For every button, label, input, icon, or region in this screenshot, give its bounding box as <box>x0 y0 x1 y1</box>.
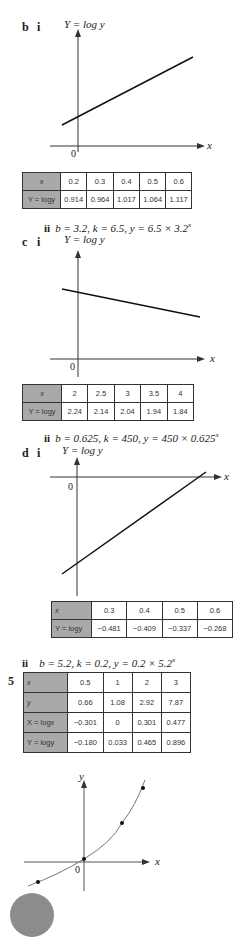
part-c-label: c <box>22 235 27 250</box>
part-b-answer: iib = 3.2, k = 6.5, y = 6.5 × 3.2x <box>44 221 191 234</box>
part-c-answer: iib = 0.625, k = 450, y = 450 × 0.625x <box>44 431 219 444</box>
part-c-sub-i: i <box>37 235 40 250</box>
table-cell: 0.4 <box>127 602 162 620</box>
question-5-x-axis-label: x <box>155 855 160 867</box>
table-cell: 1.08 <box>103 693 132 713</box>
table-cell: 0.4 <box>113 173 139 191</box>
part-d-answer-exponent: x <box>172 656 175 664</box>
table-cell: 1.94 <box>141 403 167 421</box>
table-cell: 2.92 <box>132 693 161 713</box>
table-cell: 2.24 <box>62 403 88 421</box>
table-cell: 0.5 <box>68 673 104 693</box>
part-d-graph <box>0 455 240 615</box>
table-header-Y: Y = logy <box>24 733 68 753</box>
table-header-x: x <box>24 673 68 693</box>
part-b-x-axis-label: x <box>207 139 212 151</box>
table-cell: 2.5 <box>88 385 114 403</box>
table-cell: 0.301 <box>132 713 161 733</box>
table-cell: 0.6 <box>166 173 192 191</box>
part-b-table: x 0.2 0.3 0.4 0.5 0.6 Y = logy 0.914 0.9… <box>22 172 192 209</box>
table-cell: −0.180 <box>68 733 104 753</box>
page-number-badge <box>10 893 54 937</box>
table-cell: 3 <box>161 673 190 693</box>
table-cell: 1.84 <box>167 403 193 421</box>
table-cell: 0.66 <box>68 693 104 713</box>
part-c-sub-ii: ii <box>44 432 50 444</box>
table-cell: 0.5 <box>162 602 197 620</box>
table-cell: 1.117 <box>166 191 192 209</box>
part-d-x-axis-label: x <box>224 470 229 482</box>
part-b-origin-label: 0 <box>71 148 76 159</box>
table-cell: 0.914 <box>61 191 87 209</box>
part-c-y-axis-label: Y = log y <box>64 233 105 245</box>
table-cell: 0.6 <box>197 602 232 620</box>
question-5-origin-label: 0 <box>75 864 80 875</box>
table-cell: 0.3 <box>92 602 127 620</box>
table-cell: 0.465 <box>132 733 161 753</box>
question-5-table: x 0.5 1 2 3 y 0.66 1.08 2.92 7.87 X = lo… <box>23 672 191 753</box>
table-cell: 0.3 <box>87 173 113 191</box>
question-5-y-axis-label: y <box>79 770 84 782</box>
table-cell: 0.964 <box>87 191 113 209</box>
part-d-answer-text: b = 5.2, k = 0.2, y = 0.2 × 5.2 <box>39 657 172 669</box>
table-cell: 4 <box>167 385 193 403</box>
table-cell: 7.87 <box>161 693 190 713</box>
part-b-graph <box>0 0 240 160</box>
part-d-sub-ii: ii <box>22 657 28 669</box>
table-cell: 1.017 <box>113 191 139 209</box>
table-header-x: x <box>23 173 61 191</box>
table-cell: 0.896 <box>161 733 190 753</box>
table-header-Y: Y = logy <box>52 620 92 638</box>
table-cell: −0.481 <box>92 620 127 638</box>
part-c-answer-exponent: x <box>216 431 219 439</box>
part-c-table: x 2 2.5 3 3.5 4 Y = logy 2.24 2.14 2.04 … <box>22 384 194 421</box>
table-header-x: x <box>52 602 92 620</box>
part-c-x-axis-label: x <box>210 352 215 364</box>
table-cell: 3.5 <box>141 385 167 403</box>
part-d-answer: iib = 5.2, k = 0.2, y = 0.2 × 5.2x <box>22 656 175 669</box>
part-c-answer-text: b = 0.625, k = 450, y = 450 × 0.625 <box>55 432 215 444</box>
part-c-graph <box>0 250 240 390</box>
table-cell: −0.337 <box>162 620 197 638</box>
part-c-origin-label: 0 <box>70 361 75 372</box>
part-d-table: x 0.3 0.4 0.5 0.6 Y = logy −0.481 −0.409… <box>51 601 233 638</box>
table-cell: 1 <box>103 673 132 693</box>
table-cell: 0.5 <box>140 173 166 191</box>
table-header-x: x <box>23 385 62 403</box>
table-cell: −0.409 <box>127 620 162 638</box>
question-5-graph <box>0 760 240 910</box>
table-header-Y: Y = logy <box>23 403 62 421</box>
table-cell: 0.2 <box>61 173 87 191</box>
table-cell: 3 <box>114 385 140 403</box>
table-cell: 2 <box>62 385 88 403</box>
part-b-sub-ii: ii <box>44 222 50 234</box>
table-header-Y: Y = logy <box>23 191 61 209</box>
table-cell: 0 <box>103 713 132 733</box>
table-cell: 2.04 <box>114 403 140 421</box>
table-cell: −0.301 <box>68 713 104 733</box>
table-cell: 1.064 <box>140 191 166 209</box>
part-b-answer-text: b = 3.2, k = 6.5, y = 6.5 × 3.2 <box>55 222 188 234</box>
table-cell: 2 <box>132 673 161 693</box>
question-5-label: 5 <box>8 674 14 689</box>
part-d-origin-label: 0 <box>68 481 73 492</box>
table-cell: 2.14 <box>88 403 114 421</box>
part-b-answer-exponent: x <box>188 221 191 229</box>
table-cell: 0.477 <box>161 713 190 733</box>
table-header-X: X = logx <box>24 713 68 733</box>
table-cell: −0.268 <box>197 620 232 638</box>
table-cell: 0.033 <box>103 733 132 753</box>
table-header-y: y <box>24 693 68 713</box>
